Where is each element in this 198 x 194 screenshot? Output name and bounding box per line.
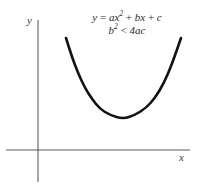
equation-line-discriminant: b2 < 4ac <box>60 24 194 37</box>
discriminant-rhs: 4ac <box>130 24 146 36</box>
equation-line-general-form: y = ax2 + bx + c <box>60 11 194 24</box>
equation-plus-1: + <box>123 11 135 23</box>
equation-equals: = <box>97 11 109 23</box>
y-axis-label: y <box>27 15 32 26</box>
equation-annotation: y = ax2 + bx + c b2 < 4ac <box>60 11 194 37</box>
parabola-figure: y x y = ax2 + bx + c b2 < 4ac <box>0 0 198 194</box>
equation-term2: bx <box>135 11 145 23</box>
parabola-curve <box>66 38 181 118</box>
x-axis-label: x <box>179 152 184 163</box>
equation-plus-2: + <box>145 11 157 23</box>
equation-term1-coefficient: ax <box>109 11 119 23</box>
equation-term3: c <box>157 11 162 23</box>
discriminant-relation: < <box>118 24 130 36</box>
